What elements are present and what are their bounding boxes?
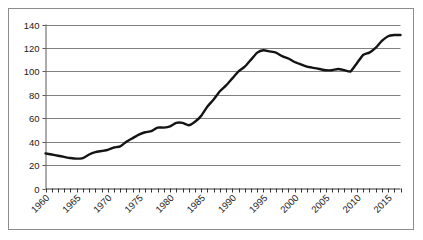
y-axis-tick-label: 120	[24, 43, 40, 54]
y-axis-tick-label: 40	[29, 137, 40, 148]
y-axis-tick-label: 140	[24, 20, 40, 31]
y-axis-tick-label: 100	[24, 66, 40, 77]
y-axis-tick-label: 80	[29, 90, 40, 101]
y-axis-tick-label: 0	[34, 184, 39, 195]
chart-figure: 0204060801001201401960196519701975198019…	[0, 0, 423, 240]
y-axis-tick-label: 60	[29, 113, 40, 124]
y-axis-tick-label: 20	[29, 160, 40, 171]
plot-area-background	[46, 25, 401, 189]
line-chart: 0204060801001201401960196519701975198019…	[0, 0, 423, 240]
